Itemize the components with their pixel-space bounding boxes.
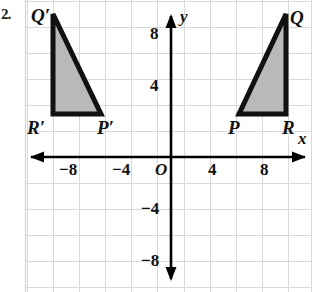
vertex-label-p-prime: P′ [97, 118, 114, 137]
y-tick-label-8: 8 [150, 25, 159, 42]
coordinate-plane-figure: 2. [0, 0, 312, 292]
coordinate-plane-graphic [0, 0, 312, 292]
y-tick-label-neg4: −4 [141, 200, 159, 217]
x-tick-label-8: 8 [260, 161, 269, 178]
origin-label: O [155, 161, 167, 178]
x-tick-label-4: 4 [208, 161, 217, 178]
y-tick-label-neg8: −8 [141, 252, 159, 269]
x-tick-label-neg4: −4 [112, 161, 130, 178]
vertex-label-p: P [228, 118, 240, 137]
x-axis-label: x [298, 130, 307, 147]
x-tick-label-neg8: −8 [59, 161, 77, 178]
y-axis-label: y [180, 8, 188, 25]
vertex-label-r-prime: R′ [27, 118, 45, 137]
vertex-label-q-prime: Q′ [31, 6, 50, 25]
y-tick-label-4: 4 [150, 77, 159, 94]
vertex-label-r: R [282, 118, 295, 137]
vertex-label-q: Q [290, 8, 304, 27]
